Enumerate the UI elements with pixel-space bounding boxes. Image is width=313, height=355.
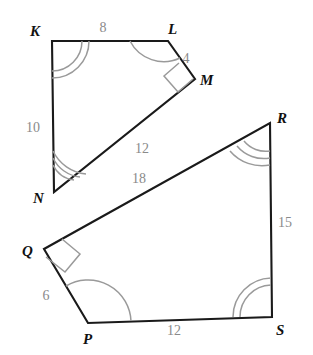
vertex-label-p: P bbox=[83, 331, 93, 347]
vertex-label-k: K bbox=[29, 23, 41, 39]
vertex-label-l: L bbox=[167, 21, 177, 37]
angle-mark-n-triple-arc bbox=[53, 151, 86, 180]
side-measure-sr: 15 bbox=[278, 215, 292, 230]
vertex-label-s: S bbox=[276, 322, 284, 338]
side-measure-nk: 10 bbox=[26, 120, 40, 135]
vertex-label-r: R bbox=[276, 110, 287, 126]
vertex-label-n: N bbox=[32, 190, 45, 206]
side-measure-ps: 12 bbox=[167, 323, 181, 338]
side-measure-rq: 18 bbox=[132, 171, 146, 186]
angle-mark-l-single-arc bbox=[130, 41, 180, 62]
shape-klmn: K L M N 8 4 12 10 bbox=[26, 20, 214, 206]
side-measure-kl: 8 bbox=[100, 20, 107, 35]
side-measure-lm: 4 bbox=[183, 51, 190, 66]
geometry-figure: K L M N 8 4 12 10 bbox=[0, 0, 313, 355]
side-measure-mn: 12 bbox=[135, 141, 149, 156]
qpsr-outline bbox=[44, 123, 272, 323]
vertex-label-m: M bbox=[199, 72, 214, 88]
angle-mark-k-double-arc bbox=[52, 41, 89, 78]
figure-canvas: K L M N 8 4 12 10 bbox=[0, 0, 313, 355]
angle-mark-r-triple-arc bbox=[230, 141, 270, 166]
side-measure-qp: 6 bbox=[43, 288, 50, 303]
angle-mark-m-right-angle bbox=[164, 63, 193, 92]
shape-qpsr: Q P S R 6 12 15 18 bbox=[22, 110, 292, 347]
angle-mark-s-double-arc bbox=[233, 278, 271, 317]
vertex-label-q: Q bbox=[22, 243, 33, 259]
klmn-outline bbox=[52, 41, 195, 192]
